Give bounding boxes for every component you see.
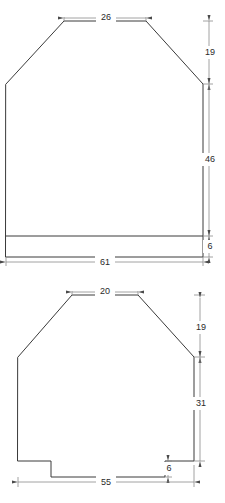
dim-label-lower-notch-height: 6 [166, 463, 171, 473]
dim-upper-bottom-width: 61 [6, 256, 203, 269]
dim-label-lower-bottom-width: 55 [101, 477, 111, 487]
dim-label-lower-shoulder-height: 19 [196, 322, 206, 332]
dim-label-lower-body-height: 31 [196, 398, 206, 408]
dim-lower-vertical-group: 19 31 6 [162, 295, 211, 477]
dim-label-upper-top-width: 26 [101, 12, 111, 22]
dim-label-upper-bottom-width: 61 [100, 257, 110, 267]
technical-drawing-canvas: 26 19 46 6 61 [0, 0, 225, 503]
upper-piece-outline [6, 21, 203, 257]
pattern-drawing-svg: 26 19 46 6 61 [0, 0, 225, 503]
upper-pattern-piece [6, 21, 203, 257]
dim-label-upper-hem-height: 6 [207, 241, 212, 251]
dim-label-lower-top-width: 20 [100, 286, 110, 296]
lower-pattern-piece [18, 295, 194, 477]
dim-lower-top-width: 20 [72, 286, 138, 298]
dim-label-upper-shoulder-height: 19 [205, 47, 215, 57]
lower-piece-outline [18, 295, 194, 477]
dim-upper-top-width: 26 [64, 12, 146, 24]
dim-label-upper-body-height: 46 [205, 154, 215, 164]
